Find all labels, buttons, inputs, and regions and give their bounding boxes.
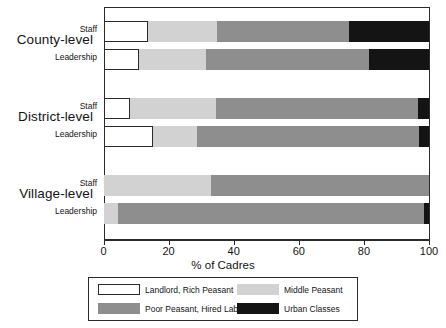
row-label-county-leadership: Leadership [55,52,97,62]
bar-district-staff [104,98,430,119]
bar-segment-poor [211,175,429,196]
legend-swatch-middle-icon [237,284,279,295]
bar-segment-poor [216,98,418,119]
legend-label-middle: Middle Peasant [284,285,343,295]
x-axis-title: % of Cadres [0,259,446,271]
legend-item-poor: Poor Peasant, Hired Laborer [98,303,253,314]
bar-segment-landlord [104,98,130,119]
x-tick-label: 100 [420,245,438,257]
legend-item-middle: Middle Peasant [237,284,343,295]
bar-segment-middle [148,21,217,42]
bar-segment-middle [130,98,216,119]
bar-segment-landlord [104,126,153,147]
legend-label-landlord: Landlord, Rich Peasant [145,285,233,295]
x-axis-line [104,240,430,241]
bar-county-staff [104,21,430,42]
bar-segment-poor [206,49,369,70]
bar-segment-middle [104,203,119,224]
row-label-county-staff: Staff [80,24,97,34]
bar-segment-poor [118,203,424,224]
bar-segment-urban [424,203,429,224]
group-label-county: County-level [17,32,93,47]
row-label-village-leadership: Leadership [55,206,97,216]
x-tick-label: 20 [162,245,174,257]
bar-district-leadership [104,126,430,147]
row-label-district-staff: Staff [80,101,97,111]
x-tick-label: 40 [228,245,240,257]
bar-segment-urban [349,21,429,42]
bar-segment-middle [139,49,206,70]
legend-swatch-urban-icon [237,303,279,314]
x-tick-label: 0 [100,245,106,257]
legend-swatch-landlord-icon [98,284,140,295]
bar-segment-middle [104,175,211,196]
bar-segment-poor [217,21,349,42]
group-label-district: District-level [18,109,93,124]
x-tick-label: 80 [358,245,370,257]
bar-segment-poor [197,126,419,147]
legend-swatch-poor-icon [98,303,140,314]
bar-county-leadership [104,49,430,70]
bar-segment-middle [153,126,197,147]
bar-village-leadership [104,203,430,224]
bar-segment-urban [419,126,429,147]
legend-item-landlord: Landlord, Rich Peasant [98,284,233,295]
bar-segment-urban [369,49,429,70]
bar-segment-landlord [104,49,139,70]
bar-segment-landlord [104,21,149,42]
legend: Landlord, Rich Peasant Middle Peasant Po… [88,277,358,321]
stacked-bar-chart: County-level District-level Village-leve… [0,0,446,328]
group-label-village: Village-level [19,186,93,201]
row-label-village-staff: Staff [80,178,97,188]
legend-label-urban: Urban Classes [284,304,340,314]
x-tick-label: 60 [293,245,305,257]
bar-segment-urban [418,98,429,119]
bar-village-staff [104,175,430,196]
row-label-district-leadership: Leadership [55,129,97,139]
legend-item-urban: Urban Classes [237,303,340,314]
